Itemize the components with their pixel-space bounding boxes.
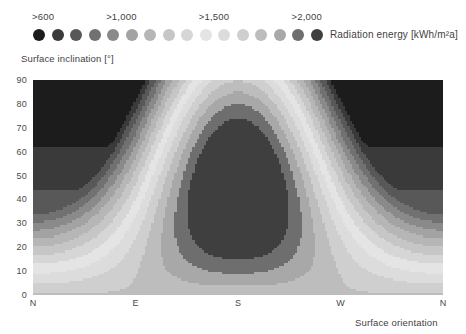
legend-tick-label: >1,500 — [199, 11, 230, 22]
legend: >600>1,000>1,500>2,000 Radiation energy … — [0, 0, 466, 50]
legend-dot — [126, 29, 138, 41]
x-axis-tick: N — [440, 298, 447, 308]
x-axis-tick-labels: NESWN — [33, 298, 443, 312]
legend-dot — [200, 29, 212, 41]
legend-dot — [255, 29, 267, 41]
x-axis-tick: E — [132, 298, 138, 308]
y-axis-tick: 70 — [17, 123, 27, 133]
y-axis-tick: 30 — [17, 218, 27, 228]
y-axis-tick: 20 — [17, 242, 27, 252]
x-axis-title: Surface orientation — [355, 317, 438, 328]
x-axis-tick: W — [336, 298, 345, 308]
y-axis-tick: 40 — [17, 194, 27, 204]
y-axis-title: Surface inclination [°] — [21, 53, 114, 64]
x-axis-tick: S — [235, 298, 241, 308]
legend-dot — [70, 29, 82, 41]
contour-plot — [33, 80, 443, 295]
legend-dot — [107, 29, 119, 41]
legend-dot — [163, 29, 175, 41]
legend-dot — [33, 29, 45, 41]
y-axis-tick: 60 — [17, 147, 27, 157]
legend-dot — [181, 29, 193, 41]
legend-dot — [237, 29, 249, 41]
legend-dot — [292, 29, 304, 41]
legend-title: Radiation energy [kWh/m²a] — [330, 29, 458, 40]
legend-dot — [89, 29, 101, 41]
contour-plot-canvas — [33, 80, 443, 295]
y-axis-tick: 0 — [22, 290, 27, 300]
legend-dot — [311, 29, 323, 41]
x-axis-tick: N — [30, 298, 37, 308]
y-axis-tick: 80 — [17, 99, 27, 109]
legend-dot — [144, 29, 156, 41]
legend-tick-labels: >600>1,000>1,500>2,000 — [33, 11, 323, 25]
legend-tick-label: >2,000 — [291, 11, 322, 22]
y-axis-tick: 50 — [17, 171, 27, 181]
legend-dot — [52, 29, 64, 41]
legend-tick-label: >600 — [32, 11, 54, 22]
y-axis-tick: 90 — [17, 75, 27, 85]
legend-tick-label: >1,000 — [106, 11, 137, 22]
y-axis-tick-labels: 9080706050403020100 — [0, 80, 31, 295]
legend-dot — [218, 29, 230, 41]
legend-color-dots — [33, 28, 323, 44]
y-axis-tick: 10 — [17, 266, 27, 276]
legend-dot — [274, 29, 286, 41]
